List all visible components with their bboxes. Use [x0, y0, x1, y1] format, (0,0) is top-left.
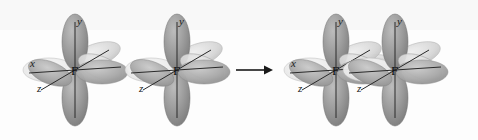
atom-element-label: F [391, 63, 398, 78]
axis-label-z: z [297, 82, 303, 94]
axis-label-y: y [396, 15, 402, 27]
orbital-diagram-canvas: F y x z F y z [0, 0, 478, 140]
axis-label-z: z [36, 82, 42, 94]
axis-label-y: y [178, 15, 184, 27]
axis-label-z: z [356, 82, 362, 94]
axis-label-y: y [76, 15, 82, 27]
axis-label-z: z [138, 82, 144, 94]
orbital-diagram-figure: F y x z F y z [0, 0, 478, 140]
axis-label-y: y [337, 15, 343, 27]
axis-label-x: x [29, 57, 35, 69]
atom-element-label: F [71, 63, 78, 78]
atom-element-label: F [332, 63, 339, 78]
atom-element-label: F [173, 63, 180, 78]
axis-label-x: x [290, 57, 296, 69]
